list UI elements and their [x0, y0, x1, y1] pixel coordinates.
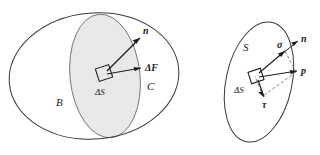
label-traction-vector-p: p	[300, 65, 306, 76]
diagram-canvas: B C ΔS n ΔF	[0, 0, 320, 155]
label-body-b: B	[56, 96, 63, 108]
left-diagram-group: B C ΔS n ΔF	[4, 6, 184, 146]
cut-surface-shaded-region	[64, 11, 147, 142]
label-area-element-right: ΔS	[233, 85, 244, 95]
label-normal-stress-sigma: σ	[277, 39, 283, 50]
label-shear-stress-tau: τ	[262, 99, 267, 110]
label-area-element-left: ΔS	[94, 87, 105, 97]
label-surface-s: S	[243, 41, 249, 53]
label-body-c: C	[147, 80, 155, 92]
label-force-vector: ΔF	[144, 62, 158, 73]
figure-root: B C ΔS n ΔF	[0, 0, 320, 155]
label-normal-vector-right: n	[301, 33, 307, 44]
right-diagram-group: S ΔS σ n p τ	[214, 15, 307, 148]
shear-stress-vector-arrow	[258, 80, 264, 97]
normal-stress-vector-arrow	[259, 51, 285, 73]
label-normal-vector-left: n	[143, 25, 149, 36]
